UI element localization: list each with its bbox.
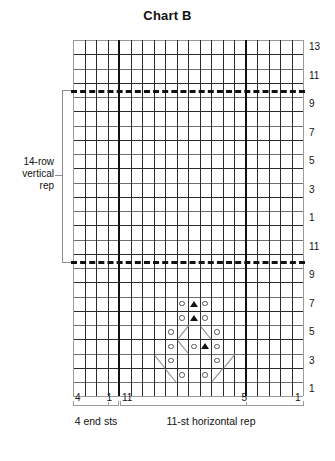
row-label-lower: 5 xyxy=(309,326,315,337)
repeat-divider-line xyxy=(245,40,247,396)
row-label-upper: 9 xyxy=(309,98,315,109)
row-label-upper: 1 xyxy=(309,212,315,223)
yarn-over-symbol xyxy=(202,315,208,321)
stitch-grid xyxy=(73,40,303,396)
end-sts-caption: 4 end sts xyxy=(75,415,118,427)
row-label-lower: 9 xyxy=(309,269,315,280)
yarn-over-symbol xyxy=(179,315,185,321)
horizontal-rep-rule xyxy=(120,405,303,406)
vertical-rep-label: 14-row vertical rep xyxy=(2,156,54,192)
yarn-over-symbol xyxy=(168,358,174,364)
row-label-upper: 13 xyxy=(309,41,320,52)
row-label-upper: 11 xyxy=(309,70,319,81)
yarn-over-symbol xyxy=(191,344,197,350)
horizontal-rep-caption: 11-st horizontal rep xyxy=(166,415,255,427)
yarn-over-symbol xyxy=(214,344,220,350)
grid-vline xyxy=(96,40,97,396)
row-label-lower: 7 xyxy=(309,298,315,309)
page-title: Chart B xyxy=(0,8,335,23)
repeat-boundary-dashed-line xyxy=(71,261,305,264)
row-label-lower: 1 xyxy=(309,383,315,394)
column-number-label: 1 xyxy=(107,392,113,403)
grid-vline xyxy=(188,40,189,396)
yarn-over-symbol xyxy=(214,329,220,335)
row-label-lower: 3 xyxy=(309,355,315,366)
end-sts-rule xyxy=(73,405,118,406)
vertical-rep-bracket-shape xyxy=(62,90,71,263)
column-number-label: 4 xyxy=(75,392,81,403)
column-number-label: 11 xyxy=(122,392,132,403)
grid-vline xyxy=(154,40,155,396)
yarn-over-symbol xyxy=(168,329,174,335)
row-label-upper: 3 xyxy=(309,184,315,195)
end-sts-cap-left xyxy=(73,401,74,406)
grid-vline xyxy=(142,40,143,396)
end-sts-cap-right xyxy=(118,401,119,406)
grid-vline xyxy=(223,40,224,396)
yarn-over-symbol xyxy=(168,344,174,350)
grid-vline xyxy=(165,40,166,396)
row-label-lower: 11 xyxy=(309,241,319,252)
grid-vline xyxy=(131,40,132,396)
grid-vline xyxy=(177,40,178,396)
grid-vline xyxy=(303,40,304,396)
grid-vline xyxy=(85,40,86,396)
grid-vline xyxy=(108,40,109,396)
grid-vline xyxy=(292,40,293,396)
horizontal-rep-cap-left xyxy=(120,401,121,406)
chart-canvas: Chart B 1311975311197531 14-row vertical… xyxy=(0,0,335,461)
grid-vline xyxy=(280,40,281,396)
column-number-label: 1 xyxy=(295,392,301,403)
row-label-upper: 7 xyxy=(309,127,315,138)
yarn-over-symbol xyxy=(214,358,220,364)
grid-vline xyxy=(234,40,235,396)
cluster-symbol xyxy=(201,343,209,349)
cluster-symbol xyxy=(190,315,198,321)
grid-vline xyxy=(257,40,258,396)
yarn-over-symbol xyxy=(202,372,208,378)
column-number-label: 5 xyxy=(242,392,248,403)
repeat-divider-line xyxy=(118,40,120,396)
row-label-upper: 5 xyxy=(309,155,315,166)
grid-vline xyxy=(211,40,212,396)
yarn-over-symbol xyxy=(179,372,185,378)
repeat-boundary-dashed-line xyxy=(71,90,305,93)
horizontal-rep-cap-right xyxy=(303,401,304,406)
cluster-symbol xyxy=(190,301,198,307)
grid-vline xyxy=(269,40,270,396)
grid-vline xyxy=(73,40,74,396)
vertical-rep-tick xyxy=(55,175,63,176)
